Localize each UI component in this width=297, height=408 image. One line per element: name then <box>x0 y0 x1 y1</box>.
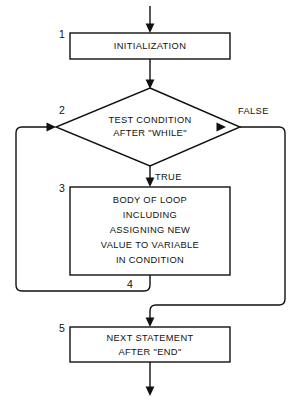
flowchart-svg: INITIALIZATION 1 TEST CONDITION AFTER "W… <box>0 0 297 408</box>
node-initialization[interactable]: INITIALIZATION <box>70 33 230 59</box>
arrowhead-icon <box>47 123 57 132</box>
connector-init-to-test <box>146 59 155 89</box>
initialization-label: INITIALIZATION <box>114 41 186 51</box>
connector-true-branch <box>146 166 155 187</box>
arrowhead-icon <box>146 318 155 328</box>
test-condition-label-line-2: AFTER "WHILE" <box>113 128 187 138</box>
step-number-2: 2 <box>59 104 65 116</box>
exit-arrow <box>146 362 155 396</box>
entry-arrow <box>146 6 155 33</box>
branch-label-true: TRUE <box>155 172 182 182</box>
step-number-5: 5 <box>59 322 65 334</box>
body-of-loop-label-line-2: INCLUDING <box>123 210 177 220</box>
branch-label-false: FALSE <box>238 106 269 116</box>
step-number-3: 3 <box>59 182 65 194</box>
arrowhead-icon <box>146 178 155 188</box>
next-statement-label-line-1: NEXT STATEMENT <box>106 333 193 343</box>
step-number-1: 1 <box>59 28 65 40</box>
flowchart-canvas: INITIALIZATION 1 TEST CONDITION AFTER "W… <box>0 0 297 408</box>
node-test-condition[interactable]: TEST CONDITION AFTER "WHILE" <box>56 88 240 166</box>
node-next-statement[interactable]: NEXT STATEMENT AFTER "END" <box>70 327 230 362</box>
body-of-loop-label-line-3: ASSIGNING NEW <box>110 225 190 235</box>
next-statement-label-line-2: AFTER "END" <box>118 347 181 357</box>
node-body-of-loop[interactable]: BODY OF LOOP INCLUDING ASSIGNING NEW VAL… <box>70 187 230 275</box>
arrowhead-icon <box>146 387 155 397</box>
body-of-loop-label-line-5: IN CONDITION <box>116 255 184 265</box>
step-number-4: 4 <box>127 278 133 290</box>
test-condition-label-line-1: TEST CONDITION <box>108 115 191 125</box>
body-of-loop-label-line-4: VALUE TO VARIABLE <box>101 240 199 250</box>
body-of-loop-label-line-1: BODY OF LOOP <box>113 195 187 205</box>
arrowhead-icon <box>146 24 155 34</box>
